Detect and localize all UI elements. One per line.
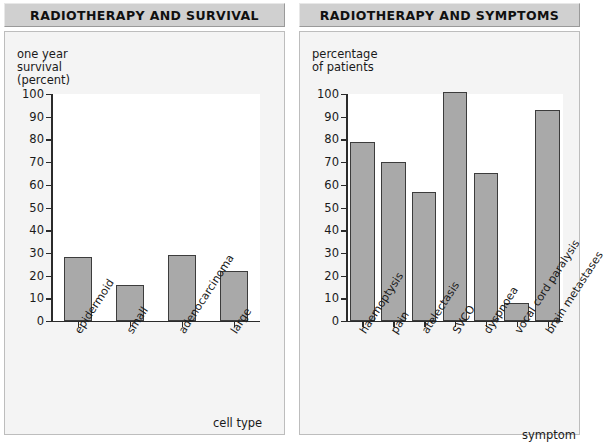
- y-tick-label-10: 10: [29, 291, 44, 305]
- plot-area-survival: 0102030405060708090100: [52, 94, 260, 321]
- y-tick-80: [46, 139, 52, 140]
- y-tick-label-60: 60: [324, 178, 339, 192]
- y-tick-10: [341, 298, 347, 299]
- y-tick-label-40: 40: [29, 223, 44, 237]
- bar-atelectasis: [412, 192, 437, 321]
- y-tick-40: [341, 230, 347, 231]
- panel-survival: RADIOTHERAPY AND SURVIVAL one year survi…: [0, 0, 289, 439]
- y-tick-label-50: 50: [29, 201, 44, 215]
- y-tick-label-40: 40: [324, 223, 339, 237]
- y-tick-label-100: 100: [22, 87, 44, 101]
- panel-title-survival: RADIOTHERAPY AND SURVIVAL: [4, 3, 285, 27]
- y-tick-90: [46, 117, 52, 118]
- y-tick-label-70: 70: [324, 155, 339, 169]
- y-axis-caption-survival: one year survival (percent): [17, 48, 70, 87]
- y-tick-label-20: 20: [29, 269, 44, 283]
- panel-body-symptoms: percentage of patients 01020304050607080…: [299, 31, 580, 435]
- y-tick-label-50: 50: [324, 201, 339, 215]
- y-tick-40: [46, 230, 52, 231]
- y-tick-50: [341, 208, 347, 209]
- bar-dyspnoea: [474, 173, 499, 321]
- y-tick-label-30: 30: [29, 246, 44, 260]
- y-tick-20: [46, 276, 52, 277]
- y-tick-70: [341, 162, 347, 163]
- y-tick-label-20: 20: [324, 269, 339, 283]
- y-tick-label-90: 90: [324, 110, 339, 124]
- y-tick-60: [46, 185, 52, 186]
- y-tick-label-0: 0: [37, 314, 44, 328]
- y-tick-label-0: 0: [332, 314, 339, 328]
- y-tick-label-80: 80: [324, 132, 339, 146]
- y-tick-20: [341, 276, 347, 277]
- chart-symptoms: percentage of patients 01020304050607080…: [300, 32, 579, 434]
- chart-survival: one year survival (percent) 010203040506…: [5, 32, 284, 434]
- y-tick-label-70: 70: [29, 155, 44, 169]
- y-tick-30: [341, 253, 347, 254]
- y-tick-100: [46, 94, 52, 95]
- y-tick-label-90: 90: [29, 110, 44, 124]
- y-tick-60: [341, 185, 347, 186]
- y-tick-30: [46, 253, 52, 254]
- y-tick-80: [341, 139, 347, 140]
- x-axis-title-symptoms: symptom: [522, 428, 576, 442]
- y-tick-label-80: 80: [29, 132, 44, 146]
- y-tick-label-60: 60: [29, 178, 44, 192]
- y-tick-0: [341, 321, 347, 322]
- y-tick-label-10: 10: [324, 291, 339, 305]
- y-tick-100: [341, 94, 347, 95]
- panel-body-survival: one year survival (percent) 010203040506…: [4, 31, 285, 435]
- y-tick-10: [46, 298, 52, 299]
- y-tick-0: [46, 321, 52, 322]
- panel-title-symptoms: RADIOTHERAPY AND SYMPTOMS: [299, 3, 580, 27]
- y-tick-70: [46, 162, 52, 163]
- bar-haemoptysis: [350, 142, 375, 321]
- y-tick-label-30: 30: [324, 246, 339, 260]
- x-axis-title-survival: cell type: [213, 416, 262, 430]
- y-axis-caption-symptoms: percentage of patients: [312, 48, 377, 74]
- y-tick-90: [341, 117, 347, 118]
- y-tick-50: [46, 208, 52, 209]
- panel-symptoms: RADIOTHERAPY AND SYMPTOMS percentage of …: [295, 0, 584, 439]
- y-tick-label-100: 100: [317, 87, 339, 101]
